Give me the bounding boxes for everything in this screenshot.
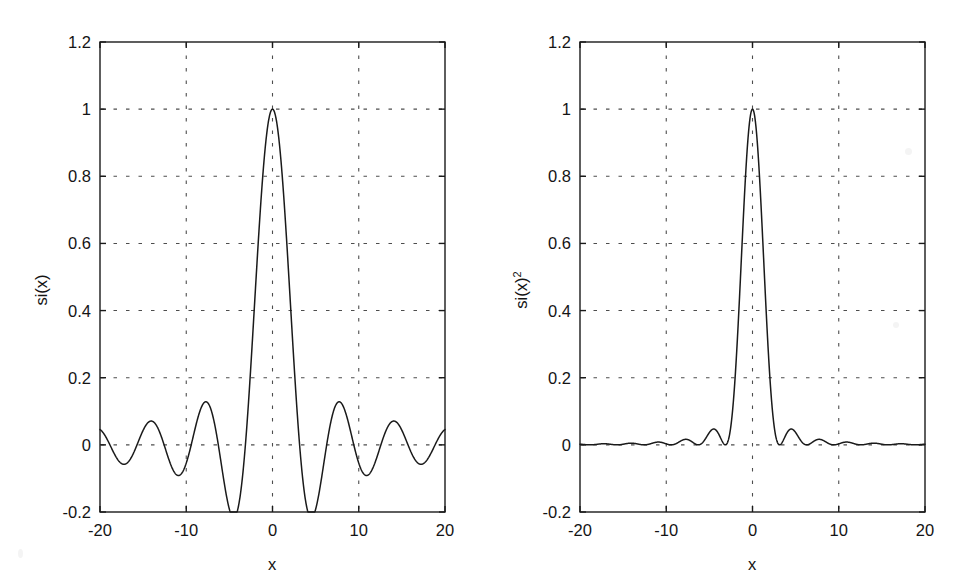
y-tick-label: -0.2 <box>543 503 571 521</box>
y-tick-label: 0.2 <box>68 369 91 387</box>
plot-svg-right: 1.210.80.60.40.20-0.2 -20-1001020 si(x)2… <box>490 0 980 582</box>
x-tick-label: 20 <box>436 521 454 539</box>
plot-panel-si-x-squared: 1.210.80.60.40.20-0.2 -20-1001020 si(x)2… <box>490 0 980 582</box>
y-tick-label: 0.6 <box>548 234 571 252</box>
x-tick-label: 10 <box>350 521 368 539</box>
y-tick-label: 1.2 <box>68 33 91 51</box>
x-tick-labels-right: -20-1001020 <box>568 521 934 539</box>
x-tick-label: 0 <box>748 521 757 539</box>
x-tick-label: -20 <box>568 521 592 539</box>
grid-lines-right <box>581 43 924 511</box>
y-tick-label: 0.4 <box>68 302 91 320</box>
tick-marks-right <box>580 42 925 512</box>
x-tick-label: 20 <box>916 521 934 539</box>
y-tick-label: 0.2 <box>548 369 571 387</box>
x-tick-label: 0 <box>268 521 277 539</box>
y-tick-label: 0.6 <box>68 234 91 252</box>
plot-svg-left: 1.210.80.60.40.20-0.2 -20-1001020 si(x) … <box>0 0 490 582</box>
plot-box-left <box>100 42 445 512</box>
tick-marks-left <box>100 42 445 512</box>
y-tick-label: 0.8 <box>68 167 91 185</box>
y-tick-label: 0 <box>82 436 91 454</box>
y-tick-label: 0.8 <box>548 167 571 185</box>
y-tick-labels-right: 1.210.80.60.40.20-0.2 <box>543 33 571 521</box>
x-tick-label: 10 <box>830 521 848 539</box>
y-tick-label: 0 <box>562 436 571 454</box>
plot-box-right <box>580 42 925 512</box>
plot-panel-si-x: 1.210.80.60.40.20-0.2 -20-1001020 si(x) … <box>0 0 490 582</box>
x-axis-title-left: x <box>268 555 277 573</box>
y-axis-title-left: si(x) <box>32 274 50 305</box>
y-tick-label: 1 <box>82 100 91 118</box>
y-axis-title-right: si(x)2 <box>511 271 530 308</box>
y-tick-label: 1 <box>562 100 571 118</box>
x-tick-label: -10 <box>174 521 198 539</box>
y-tick-label: 1.2 <box>548 33 571 51</box>
x-axis-title-right: x <box>748 555 757 573</box>
y-tick-label: 0.4 <box>548 302 571 320</box>
y-tick-labels-left: 1.210.80.60.40.20-0.2 <box>63 33 91 521</box>
x-tick-label: -10 <box>654 521 678 539</box>
y-tick-label: -0.2 <box>63 503 91 521</box>
figure-root: 1.210.80.60.40.20-0.2 -20-1001020 si(x) … <box>0 0 980 582</box>
x-tick-label: -20 <box>88 521 112 539</box>
x-tick-labels-left: -20-1001020 <box>88 521 454 539</box>
grid-lines-left <box>101 43 444 511</box>
